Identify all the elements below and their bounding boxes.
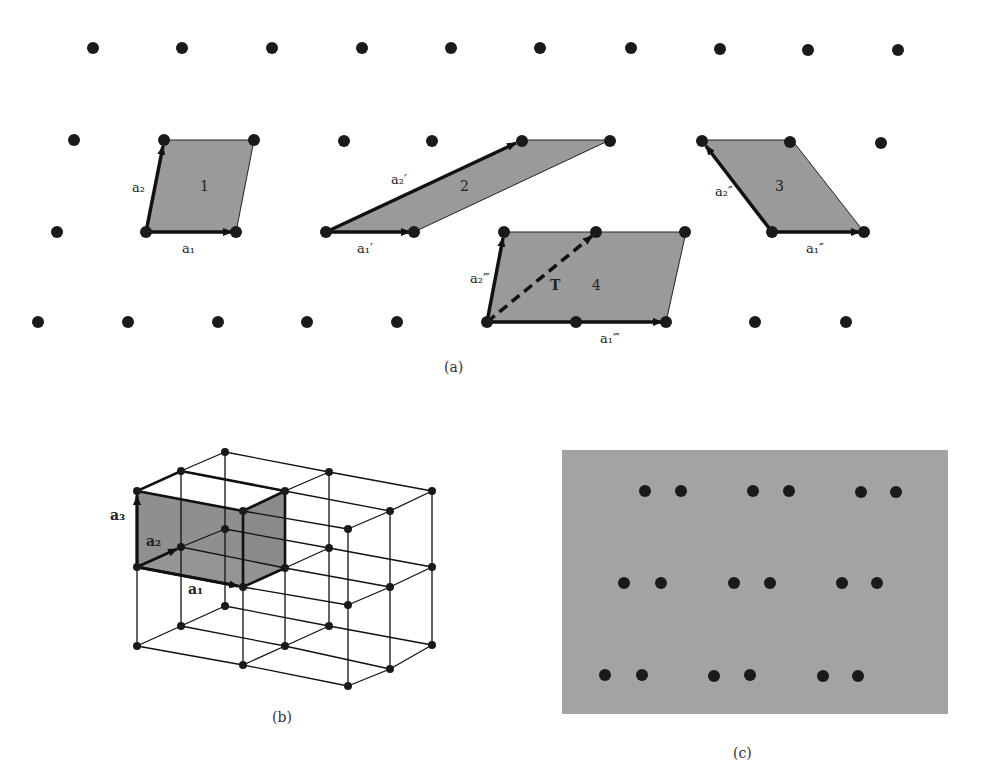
panel-c: (c) (562, 450, 948, 761)
label-a1-prime: a₁′ (357, 241, 373, 256)
caption-c: (c) (733, 745, 752, 761)
cell-label-1: 1 (200, 178, 209, 194)
label-a2-3d: a₂ (146, 533, 161, 549)
cell-label-2: 2 (460, 178, 469, 194)
caption-b: (b) (272, 709, 292, 725)
cell-label-4: 4 (592, 277, 601, 293)
label-a2-prime: a₂′ (391, 172, 407, 187)
crystal-lattice-figure: 1 2 3 4 T a₁ a₂ a₁′ a₂′ a₁″ a₂″ a₁‴ a₂‴ … (0, 0, 985, 783)
label-a2-double-prime: a₂″ (715, 184, 733, 199)
cell-label-3: 3 (775, 178, 784, 194)
label-T: T (550, 277, 561, 293)
label-a2-triple-prime: a₂‴ (470, 271, 490, 286)
label-a1-3d: a₁ (188, 581, 203, 597)
label-a2: a₂ (132, 180, 145, 195)
unit-cell-4 (487, 232, 686, 322)
label-a1-double-prime: a₁″ (806, 241, 824, 256)
panel-b: a₁ a₂ a₃ (b) (110, 448, 436, 725)
caption-a: (a) (444, 359, 463, 375)
label-a1: a₁ (182, 241, 195, 256)
label-a1-triple-prime: a₁‴ (600, 331, 620, 346)
panel-a: 1 2 3 4 T a₁ a₂ a₁′ a₂′ a₁″ a₂″ a₁‴ a₂‴ … (32, 42, 904, 375)
label-a3-3d: a₃ (110, 507, 125, 523)
